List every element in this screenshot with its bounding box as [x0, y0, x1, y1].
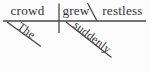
subject-modifier-word: The — [15, 19, 39, 41]
predicate-adjective-word: restless — [102, 3, 142, 18]
diagram-canvas: crowd grew restless The suddenly — [0, 0, 150, 71]
verb-modifier-word: suddenly — [71, 18, 114, 56]
sentence-diagram: crowd grew restless The suddenly — [0, 0, 150, 71]
verb-word: grew — [62, 3, 89, 18]
subject-word: crowd — [11, 3, 45, 18]
